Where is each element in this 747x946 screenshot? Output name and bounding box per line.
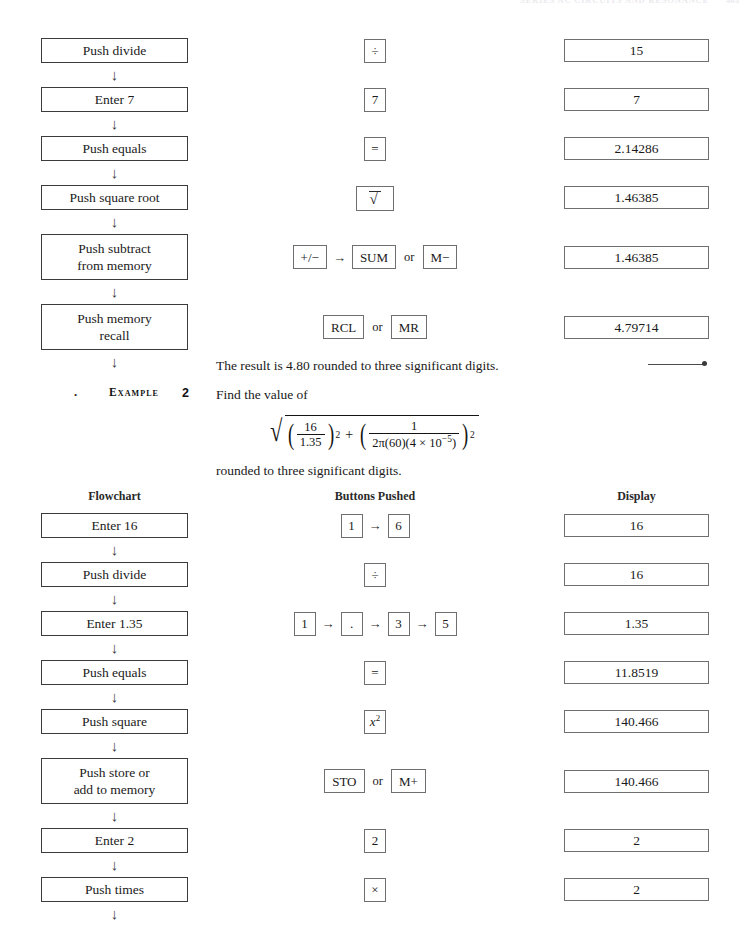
calculator-key[interactable]: 5: [435, 612, 457, 636]
flowchart-step-label: Push subtract: [78, 240, 150, 257]
calculator-key[interactable]: 3: [388, 612, 410, 636]
fraction-1-denominator: 1.35: [297, 434, 325, 449]
calculator-key[interactable]: STO: [324, 769, 364, 793]
key-sequence-arrow-icon: →: [416, 617, 429, 630]
flowchart-step-label: from memory: [77, 257, 152, 274]
flowchart-step-label: Push square: [82, 713, 147, 730]
fraction-2-denominator-main: 2π(60)(4 × 10: [372, 436, 442, 450]
buttons-pushed-group: STOorM+: [250, 769, 500, 793]
flowchart-down-arrow-icon: ↓: [41, 543, 188, 558]
flowchart-step-box: Push subtractfrom memory: [41, 234, 188, 280]
calculator-key[interactable]: .: [341, 612, 363, 636]
buttons-pushed-group: =: [250, 661, 500, 685]
calculator-key[interactable]: ÷: [364, 563, 386, 587]
close-paren-2: ): [462, 422, 468, 447]
flowchart-step-box: Push square root: [41, 185, 188, 210]
exponent-2: 2: [470, 430, 475, 440]
end-of-example-rule: [648, 364, 703, 365]
calculator-key[interactable]: =: [364, 661, 386, 685]
flowchart-step-label: Push memory: [77, 310, 152, 327]
display-value-box: 1.46385: [564, 186, 709, 209]
calculator-key[interactable]: ÷: [364, 39, 386, 63]
plus-operator: +: [340, 427, 358, 443]
buttons-pushed-group: ÷: [250, 39, 500, 63]
buttons-pushed-group: √: [250, 186, 500, 211]
flowchart-down-arrow-icon: ↓: [41, 858, 188, 873]
calculator-key[interactable]: MR: [391, 315, 427, 339]
buttons-pushed-group: x2: [250, 710, 500, 734]
flowchart-down-arrow-icon: ↓: [41, 809, 188, 824]
fraction-2-denominator-tail: ): [452, 436, 456, 450]
buttons-pushed-group: RCLorMR: [250, 315, 500, 339]
flowchart-step-label: Push square root: [70, 189, 160, 206]
running-head: SERIES AC CIRCUITS AND RESONANCE 403: [0, 0, 747, 10]
example2-formula: √ ( 16 1.35 ) 2 + ( 1 2π(60)(4 × 10−5) )…: [0, 415, 747, 450]
display-value-box: 1.35: [564, 612, 709, 635]
flowchart-step-label: Push divide: [83, 566, 146, 583]
flowchart-down-arrow-icon: ↓: [41, 166, 188, 181]
flowchart-step-box: Enter 7: [41, 87, 188, 112]
calculator-key[interactable]: M+: [391, 769, 426, 793]
key-alternative-separator: or: [402, 250, 416, 265]
calculator-key[interactable]: 6: [388, 514, 410, 538]
calculator-key[interactable]: 1: [341, 514, 363, 538]
calculator-key[interactable]: =: [364, 137, 386, 161]
display-value-box: 7: [564, 88, 709, 111]
end-of-example-dot: [702, 361, 707, 366]
fraction-1: 16 1.35: [297, 420, 325, 449]
column-header-flowchart: Flowchart: [41, 489, 188, 504]
buttons-pushed-group: 2: [250, 829, 500, 853]
flowchart-step-box: Push times: [41, 877, 188, 902]
display-value-box: 11.8519: [564, 661, 709, 684]
display-value-box: 16: [564, 563, 709, 586]
flowchart-step-box: Push store oradd to memory: [41, 758, 188, 804]
fraction-2: 1 2π(60)(4 × 10−5): [369, 419, 459, 450]
fraction-2-numerator: 1: [408, 419, 420, 433]
example-number: 2: [182, 386, 189, 400]
flowchart-down-arrow-icon: ↓: [41, 68, 188, 83]
calculator-key-square-root[interactable]: √: [356, 186, 394, 211]
flowchart-step-label: Push equals: [82, 664, 146, 681]
display-value-box: 2.14286: [564, 137, 709, 160]
key-sequence-arrow-icon: →: [333, 251, 346, 264]
display-value-box: 16: [564, 514, 709, 537]
flowchart-step-box: Push equals: [41, 660, 188, 685]
calculator-key[interactable]: 2: [364, 829, 386, 853]
flowchart-step-box: Push memoryrecall: [41, 304, 188, 350]
open-paren-2: (: [360, 422, 366, 447]
page-number: 403: [726, 0, 739, 5]
flowchart-down-arrow-icon: ↓: [41, 117, 188, 132]
example-bullet-icon: •: [74, 391, 77, 400]
calculator-key[interactable]: RCL: [323, 315, 364, 339]
buttons-pushed-group: ÷: [250, 563, 500, 587]
calculator-key[interactable]: M−: [423, 245, 458, 269]
calculator-key-x-squared[interactable]: x2: [364, 710, 386, 734]
flowchart-step-label: Enter 1.35: [86, 615, 142, 632]
flowchart-down-arrow-icon: ↓: [41, 285, 188, 300]
flowchart-step-box: Enter 2: [41, 828, 188, 853]
calculator-key[interactable]: 1: [294, 612, 316, 636]
display-value-box: 2: [564, 878, 709, 901]
running-head-title: SERIES AC CIRCUITS AND RESONANCE: [520, 0, 709, 5]
column-header-buttons-pushed: Buttons Pushed: [250, 489, 500, 504]
flowchart-down-arrow-icon: ↓: [41, 641, 188, 656]
calculator-key[interactable]: SUM: [352, 245, 396, 269]
calculator-key[interactable]: +/−: [293, 245, 327, 269]
flowchart-step-label: Enter 2: [95, 832, 134, 849]
key-sequence-arrow-icon: →: [322, 617, 335, 630]
flowchart-step-box: Push square: [41, 709, 188, 734]
calculator-key[interactable]: ×: [364, 878, 386, 902]
sqrt-icon: √: [270, 416, 282, 451]
display-value-box: 1.46385: [564, 246, 709, 269]
fraction-1-numerator: 16: [301, 420, 320, 434]
key-alternative-separator: or: [370, 320, 384, 335]
fraction-2-denominator: 2π(60)(4 × 10−5): [369, 433, 459, 450]
x-squared-icon: x2: [370, 714, 380, 728]
example1-result-text: The result is 4.80 rounded to three sign…: [216, 357, 499, 375]
example2-after-formula-text: rounded to three significant digits.: [216, 462, 402, 480]
display-value-box: 2: [564, 829, 709, 852]
calculator-key[interactable]: 7: [364, 88, 386, 112]
flowchart-down-arrow-icon: ↓: [41, 690, 188, 705]
buttons-pushed-group: ×: [250, 878, 500, 902]
flowchart-down-arrow-icon: ↓: [41, 592, 188, 607]
